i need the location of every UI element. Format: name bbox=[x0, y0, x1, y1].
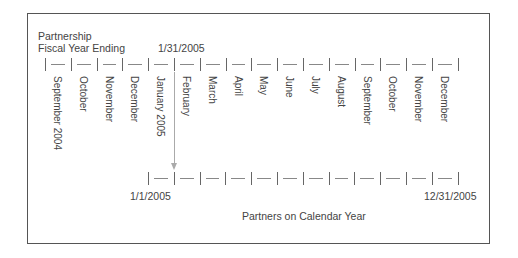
month-label: March bbox=[207, 76, 218, 104]
calendar-end-label: 12/31/2005 bbox=[424, 190, 477, 202]
bottom-timeline-segment bbox=[309, 178, 323, 179]
bottom-timeline-tick bbox=[303, 172, 304, 185]
top-timeline-segment bbox=[180, 64, 194, 65]
fiscal-date-label: 1/31/2005 bbox=[158, 42, 205, 54]
partnership-label: Partnership bbox=[38, 30, 92, 42]
bottom-timeline-segment bbox=[231, 178, 245, 179]
arrow-line bbox=[174, 72, 175, 164]
bottom-timeline-tick bbox=[406, 172, 407, 185]
month-label: September 2004 bbox=[52, 76, 63, 150]
top-timeline-segment bbox=[335, 64, 349, 65]
top-timeline-tick bbox=[277, 58, 278, 71]
month-label: October bbox=[387, 76, 398, 112]
month-label: November bbox=[413, 76, 424, 122]
top-timeline-segment bbox=[77, 64, 91, 65]
month-label: July bbox=[310, 76, 321, 94]
bottom-timeline-segment bbox=[206, 178, 220, 179]
top-timeline-segment bbox=[386, 64, 400, 65]
top-timeline-segment bbox=[232, 64, 246, 65]
bottom-timeline-segment bbox=[360, 178, 374, 179]
bottom-timeline-tick bbox=[251, 172, 252, 185]
top-timeline-tick bbox=[251, 58, 252, 71]
top-timeline-tick bbox=[355, 58, 356, 71]
bottom-timeline-tick bbox=[174, 172, 175, 185]
bottom-timeline-segment bbox=[283, 178, 297, 179]
bottom-timeline-segment bbox=[154, 178, 168, 179]
top-timeline-tick bbox=[432, 58, 433, 71]
bottom-timeline-tick bbox=[148, 172, 149, 185]
month-label: January 2005 bbox=[155, 76, 166, 137]
top-timeline-tick bbox=[97, 58, 98, 71]
bottom-timeline-tick bbox=[277, 172, 278, 185]
month-label: December bbox=[439, 76, 450, 122]
top-timeline-tick bbox=[226, 58, 227, 71]
top-timeline-segment bbox=[257, 64, 271, 65]
bottom-timeline-tick bbox=[458, 172, 459, 185]
bottom-timeline-segment bbox=[257, 178, 271, 179]
month-label: December bbox=[129, 76, 140, 122]
bottom-timeline-tick bbox=[380, 172, 381, 185]
calendar-year-caption: Partners on Calendar Year bbox=[242, 210, 366, 222]
bottom-timeline-tick bbox=[200, 172, 201, 185]
top-timeline-tick bbox=[200, 58, 201, 71]
top-timeline-tick bbox=[406, 58, 407, 71]
top-timeline-segment bbox=[438, 64, 452, 65]
top-timeline-tick bbox=[458, 58, 459, 71]
top-timeline-segment bbox=[283, 64, 297, 65]
bottom-timeline-segment bbox=[412, 178, 426, 179]
top-timeline-tick bbox=[45, 58, 46, 71]
month-label: May bbox=[258, 76, 269, 95]
month-label: October bbox=[78, 76, 89, 112]
month-label: August bbox=[336, 76, 347, 107]
month-label: February bbox=[181, 76, 192, 116]
month-label: June bbox=[284, 76, 295, 98]
bottom-timeline-tick bbox=[329, 172, 330, 185]
top-timeline-tick bbox=[174, 58, 175, 71]
top-timeline-tick bbox=[148, 58, 149, 71]
top-timeline-tick bbox=[303, 58, 304, 71]
month-label: September bbox=[362, 76, 373, 125]
top-timeline-segment bbox=[309, 64, 323, 65]
month-label: April bbox=[233, 76, 244, 96]
top-timeline-tick bbox=[329, 58, 330, 71]
top-timeline-segment bbox=[128, 64, 142, 65]
month-label: November bbox=[104, 76, 115, 122]
top-timeline-segment bbox=[51, 64, 65, 65]
top-timeline-tick bbox=[380, 58, 381, 71]
top-timeline-segment bbox=[206, 64, 220, 65]
bottom-timeline-segment bbox=[386, 178, 400, 179]
top-timeline-tick bbox=[122, 58, 123, 71]
bottom-timeline-segment bbox=[180, 178, 194, 179]
top-timeline-tick bbox=[71, 58, 72, 71]
top-timeline-segment bbox=[412, 64, 426, 65]
calendar-start-label: 1/1/2005 bbox=[130, 190, 171, 202]
fiscal-year-ending-label: Fiscal Year Ending bbox=[38, 42, 125, 54]
bottom-timeline-segment bbox=[438, 178, 452, 179]
top-timeline-segment bbox=[103, 64, 117, 65]
arrow-down-icon bbox=[171, 163, 177, 170]
bottom-timeline-segment bbox=[335, 178, 349, 179]
top-timeline-segment bbox=[154, 64, 168, 65]
bottom-timeline-tick bbox=[354, 172, 355, 185]
bottom-timeline-tick bbox=[432, 172, 433, 185]
bottom-timeline-tick bbox=[225, 172, 226, 185]
top-timeline-segment bbox=[361, 64, 375, 65]
